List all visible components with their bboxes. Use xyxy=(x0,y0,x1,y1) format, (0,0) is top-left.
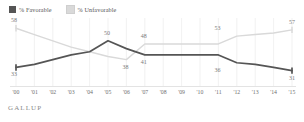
data-label: 58 xyxy=(11,17,17,23)
chart-container: % Favorable % Unfavorable 33504136315838… xyxy=(0,0,304,122)
square-swatch-icon xyxy=(66,5,75,14)
series-line-favorable xyxy=(16,41,292,71)
x-tick-label: '04 xyxy=(86,90,93,96)
x-tick-label: '09 xyxy=(178,90,185,96)
x-tick-label: '12 xyxy=(233,90,240,96)
x-axis: '00'01'02'03'04'05'06'07'08'09'10'11'12'… xyxy=(0,88,304,100)
data-label: 36 xyxy=(214,67,220,73)
x-tick-label: '14 xyxy=(270,90,277,96)
legend-label-favorable: % Favorable xyxy=(19,6,52,13)
plot-area xyxy=(0,18,304,86)
x-tick-label: '08 xyxy=(160,90,167,96)
x-tick-label: '07 xyxy=(141,90,148,96)
x-tick-label: '00 xyxy=(13,90,20,96)
data-label: 33 xyxy=(11,71,17,77)
legend-item-unfavorable[interactable]: % Unfavorable xyxy=(66,5,117,14)
x-tick-label: '02 xyxy=(49,90,56,96)
data-label: 50 xyxy=(104,30,110,36)
source-attribution: GALLUP xyxy=(8,104,42,112)
x-tick-label: '06 xyxy=(123,90,130,96)
data-label: 38 xyxy=(122,64,128,70)
legend-label-unfavorable: % Unfavorable xyxy=(78,6,117,13)
square-swatch-icon xyxy=(9,6,16,13)
data-label: 53 xyxy=(214,25,220,31)
axis-baseline xyxy=(10,86,296,87)
data-label: 48 xyxy=(141,33,147,39)
chart-svg xyxy=(0,18,304,86)
x-tick-label: '03 xyxy=(68,90,75,96)
data-label: 41 xyxy=(141,59,147,65)
x-tick-label: '10 xyxy=(197,90,204,96)
x-tick-label: '13 xyxy=(252,90,259,96)
x-tick-label: '11 xyxy=(215,90,222,96)
chart-legend: % Favorable % Unfavorable xyxy=(9,3,116,15)
x-tick-label: '15 xyxy=(289,90,296,96)
x-tick-label: '05 xyxy=(105,90,112,96)
data-label: 31 xyxy=(289,75,295,81)
data-label: 57 xyxy=(289,19,295,25)
legend-item-favorable[interactable]: % Favorable xyxy=(9,6,52,13)
x-tick-label: '01 xyxy=(31,90,38,96)
